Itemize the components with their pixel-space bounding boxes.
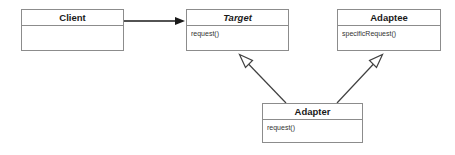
class-member-request: request() <box>267 123 358 132</box>
class-name-target: Target <box>187 10 288 26</box>
uml-class-diagram: Target association (solid line, filled a… <box>0 0 455 155</box>
class-member-specific-request: specificRequest() <box>342 29 436 38</box>
generalization-line <box>337 64 374 103</box>
class-box-client[interactable]: Client <box>21 9 124 51</box>
class-members-adaptee: specificRequest() <box>338 26 440 38</box>
hollow-triangle-arrowhead-icon <box>240 55 253 68</box>
class-box-adapter[interactable]: Adapter request() <box>262 103 363 143</box>
edge-adapter-to-adaptee[interactable] <box>337 55 383 104</box>
generalization-line <box>249 64 287 103</box>
class-name-adapter: Adapter <box>263 104 362 120</box>
class-name-client: Client <box>22 10 123 26</box>
class-box-adaptee[interactable]: Adaptee specificRequest() <box>337 9 441 51</box>
class-members-target: request() <box>187 26 288 38</box>
class-box-target[interactable]: Target request() <box>186 9 289 51</box>
class-name-adaptee: Adaptee <box>338 10 440 26</box>
class-members-adapter: request() <box>263 120 362 132</box>
class-member-request: request() <box>191 29 284 38</box>
edge-adapter-to-target[interactable] <box>240 55 287 104</box>
filled-arrowhead-icon <box>175 17 185 25</box>
edge-client-to-target[interactable] <box>124 17 185 25</box>
hollow-triangle-arrowhead-icon <box>370 55 383 68</box>
